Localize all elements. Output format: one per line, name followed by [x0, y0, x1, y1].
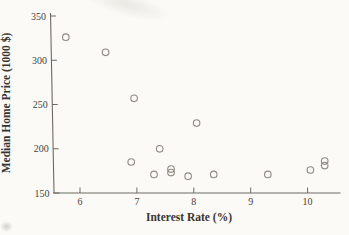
- data-point: [102, 49, 109, 56]
- scatterplot-figure: 150200250300350 678910 Interest Rate (%)…: [0, 0, 349, 235]
- data-point: [131, 95, 138, 102]
- data-point: [321, 158, 328, 165]
- data-point: [151, 171, 158, 178]
- x-axis-title: Interest Rate (%): [146, 211, 232, 224]
- x-tick-label: 8: [191, 196, 196, 207]
- x-axis-ticks: 678910: [78, 188, 313, 207]
- y-tick-label: 150: [35, 188, 50, 199]
- data-point: [128, 159, 135, 166]
- x-tick-label: 10: [303, 196, 313, 207]
- y-axis-ticks: 150200250300350: [31, 11, 59, 199]
- data-point: [185, 173, 192, 180]
- y-tick-label: 300: [32, 55, 47, 66]
- y-tick-label: 200: [34, 143, 49, 154]
- x-tick-label: 7: [134, 196, 139, 207]
- data-points: [63, 34, 329, 180]
- scatter-chart: 150200250300350 678910 Interest Rate (%)…: [0, 0, 349, 235]
- x-tick-label: 9: [248, 196, 253, 207]
- data-point: [265, 171, 272, 178]
- y-axis-title: Median Home Price (1000 $): [0, 33, 13, 174]
- data-point: [307, 167, 314, 174]
- y-tick-label: 350: [31, 11, 46, 22]
- data-point: [210, 171, 217, 178]
- y-axis-line: [51, 13, 55, 193]
- x-tick-label: 6: [78, 196, 83, 207]
- data-point: [156, 146, 163, 153]
- axes: [51, 13, 341, 193]
- y-tick-label: 250: [33, 99, 48, 110]
- data-point: [63, 34, 70, 41]
- data-point: [193, 120, 200, 127]
